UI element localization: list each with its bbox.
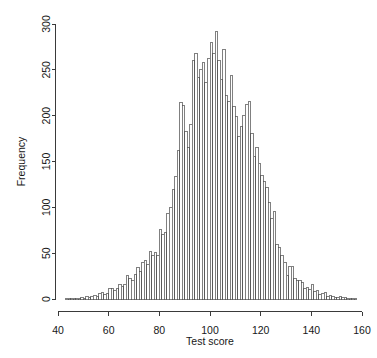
histogram-bar [233, 107, 236, 300]
histogram-bar [144, 261, 147, 300]
histogram-bar [334, 297, 337, 299]
histogram-bar [83, 298, 86, 299]
histogram-bar [263, 182, 266, 299]
y-axis-tick-label: 150 [40, 153, 52, 171]
histogram-bar [256, 148, 259, 299]
histogram-bar [182, 106, 185, 299]
histogram-bar [266, 187, 269, 299]
histogram-bar [126, 275, 129, 299]
histogram-bar [154, 252, 157, 299]
histogram-bar [131, 281, 134, 299]
histogram-bar [337, 297, 340, 299]
histogram-bar [111, 289, 114, 299]
histogram-bar [306, 287, 309, 299]
histogram-bar [177, 151, 180, 300]
histogram-bar [119, 284, 122, 299]
histogram-bar [185, 131, 188, 299]
histogram-bar [347, 298, 350, 299]
histogram-bar [327, 296, 330, 299]
histogram-bar [273, 211, 276, 299]
histogram-bar [342, 297, 345, 299]
histogram-bar [213, 53, 216, 299]
histogram-bar [329, 295, 332, 299]
histogram-bar [172, 190, 175, 299]
histogram-bar [180, 103, 183, 299]
histogram-bar [289, 266, 292, 299]
histogram-bar [276, 244, 279, 299]
histogram-bar [81, 297, 84, 299]
x-axis-tick-label: 160 [353, 324, 371, 336]
histogram-bar [339, 296, 342, 299]
histogram-bar [316, 291, 319, 299]
histogram-bar [96, 296, 99, 299]
histogram-bar [78, 298, 81, 299]
histogram-bar [235, 117, 238, 299]
histogram-bar [164, 232, 167, 299]
histogram-bar [116, 288, 119, 299]
x-axis-tick-label: 40 [52, 324, 64, 336]
histogram-bar [324, 293, 327, 299]
histogram-bar [286, 275, 289, 299]
histogram-bar [261, 175, 264, 299]
histogram-bar [215, 31, 218, 299]
histogram-bar [169, 207, 172, 299]
histogram-bar [332, 296, 335, 299]
histogram-bar [319, 294, 322, 299]
histogram-bar [291, 266, 294, 299]
x-axis-tick-label: 60 [103, 324, 115, 336]
histogram-bar [134, 274, 137, 299]
histogram-bar [230, 75, 233, 299]
x-axis-tick-label: 140 [303, 324, 321, 336]
histogram-bar [245, 105, 248, 299]
histogram-bar [101, 293, 104, 299]
histogram-chart: 050100150200250300Frequency4060801001201… [0, 0, 377, 358]
y-axis-tick-label: 200 [40, 107, 52, 125]
histogram-bar [93, 295, 96, 299]
histogram-bar [91, 296, 94, 299]
histogram-bar [220, 79, 223, 299]
histogram-bar [268, 203, 271, 299]
histogram-bar [157, 255, 160, 299]
histogram-bar [99, 294, 102, 300]
histogram-bar [106, 294, 109, 300]
histogram-bar [294, 279, 297, 299]
histogram-bar [195, 53, 198, 299]
histogram-bar [240, 127, 243, 299]
histogram-figure: 050100150200250300Frequency4060801001201… [0, 0, 377, 358]
histogram-bar [175, 176, 178, 299]
histogram-bar [192, 61, 195, 299]
histogram-bar [271, 218, 274, 299]
y-axis: 050100150200250300Frequency [15, 15, 56, 302]
histogram-bar [124, 284, 127, 299]
histogram-bar [225, 96, 228, 300]
histogram-bar [210, 42, 213, 299]
histogram-bar [352, 298, 355, 299]
histogram-bar [152, 256, 155, 299]
histogram-bar [223, 50, 226, 299]
histogram-bar [309, 290, 312, 299]
histogram-bar [311, 284, 314, 299]
x-axis-tick-label: 120 [252, 324, 270, 336]
histogram-bar [218, 61, 221, 299]
histogram-bar [71, 298, 74, 299]
histogram-bar [301, 283, 304, 300]
histogram-bar [88, 297, 91, 299]
y-axis-tick-label: 0 [40, 296, 52, 302]
y-axis-tick-label: 300 [40, 15, 52, 33]
histogram-bar [139, 272, 142, 300]
histogram-bar [159, 229, 162, 299]
histogram-bar [253, 156, 256, 299]
histogram-bar [162, 235, 165, 299]
histogram-bar [238, 137, 241, 299]
histogram-bar [147, 264, 150, 299]
histogram-bar [258, 163, 261, 299]
histogram-bar [299, 281, 302, 299]
histogram-bar [248, 102, 251, 299]
histogram-bar [228, 102, 231, 299]
histogram-bar [281, 256, 284, 299]
histogram-bar [167, 214, 170, 299]
histogram-bar [66, 298, 69, 299]
histogram-bar [76, 298, 79, 299]
histogram-bar [349, 298, 352, 299]
x-axis-title: Test score [186, 335, 234, 347]
